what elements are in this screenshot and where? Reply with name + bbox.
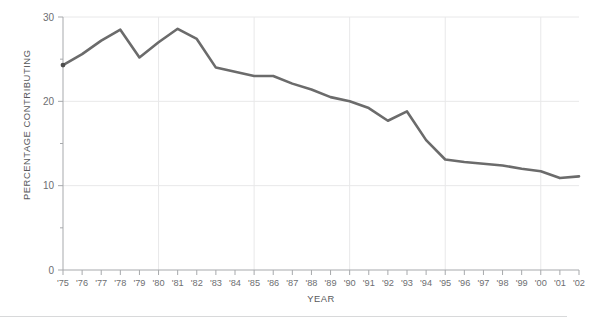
x-tick-label: '85 — [248, 278, 260, 288]
x-tick-label: '87 — [286, 278, 298, 288]
y-tick-label: 0 — [48, 265, 54, 276]
x-tick-label: '76 — [76, 278, 88, 288]
x-tick-label: '97 — [477, 278, 489, 288]
x-tick-label: '96 — [458, 278, 470, 288]
y-tick-label: 30 — [43, 12, 55, 23]
x-tick-label: '80 — [153, 278, 165, 288]
y-axis-title: PERCENTAGE CONTRIBUTING — [21, 49, 32, 200]
x-tick-label: '01 — [554, 278, 566, 288]
x-tick-label: '99 — [516, 278, 528, 288]
x-tick-label: '90 — [344, 278, 356, 288]
y-tick-label: 20 — [43, 96, 55, 107]
chart-plot-area: 0102030 '75'76'77'78'79'80'81'82'83'84'8… — [0, 0, 591, 329]
x-tick-label: '81 — [172, 278, 184, 288]
x-tick-label: '83 — [210, 278, 222, 288]
x-tick-label: '02 — [573, 278, 585, 288]
x-tick-label: '98 — [497, 278, 509, 288]
first-data-point-marker — [61, 63, 66, 68]
x-tick-label: '95 — [439, 278, 451, 288]
x-axis-title: YEAR — [307, 293, 335, 304]
ticks-group — [58, 17, 579, 275]
x-tick-label: '91 — [363, 278, 375, 288]
y-axis-tick-labels: 0102030 — [43, 12, 55, 276]
x-tick-label: '89 — [325, 278, 337, 288]
gridlines-group — [63, 17, 579, 270]
x-tick-label: '82 — [191, 278, 203, 288]
x-tick-label: '84 — [229, 278, 241, 288]
x-tick-label: '92 — [382, 278, 394, 288]
x-tick-label: '79 — [133, 278, 145, 288]
x-tick-label: '77 — [95, 278, 107, 288]
x-tick-label: '75 — [57, 278, 69, 288]
x-tick-label: '88 — [305, 278, 317, 288]
line-chart-figure: 0102030 '75'76'77'78'79'80'81'82'83'84'8… — [0, 0, 591, 329]
x-tick-label: '00 — [535, 278, 547, 288]
x-axis-tick-labels: '75'76'77'78'79'80'81'82'83'84'85'86'87'… — [57, 278, 585, 288]
y-tick-label: 10 — [43, 180, 55, 191]
x-tick-label: '93 — [401, 278, 413, 288]
x-tick-label: '86 — [267, 278, 279, 288]
bottom-divider — [0, 316, 567, 317]
data-series-line — [63, 29, 579, 178]
x-tick-label: '94 — [420, 278, 432, 288]
x-tick-label: '78 — [114, 278, 126, 288]
